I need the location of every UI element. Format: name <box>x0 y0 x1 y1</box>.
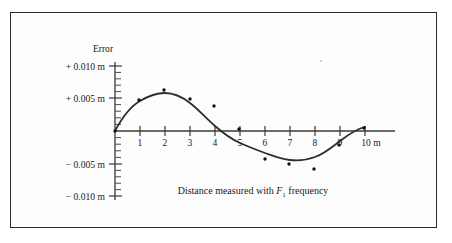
x-tick-label-7: 7 <box>288 137 293 148</box>
x-tick-label-1: 1 <box>138 137 143 148</box>
y-tick-label-neg-0.005: − 0.005 m <box>66 159 106 170</box>
x-tick-label-2: 2 <box>163 137 168 148</box>
error-curve-chart: + 0.010 m + 0.005 m − 0.005 m − 0.010 m … <box>0 0 452 243</box>
x-tick-label-3: 3 <box>188 137 193 148</box>
x-tick-label-8: 8 <box>313 137 318 148</box>
caption-suffix: frequency <box>286 185 328 196</box>
data-point <box>337 143 340 146</box>
x-tick-label-5: 5 <box>238 137 243 148</box>
data-point <box>237 127 240 130</box>
y-tick-label-pos-0.010: + 0.010 m <box>66 61 106 72</box>
data-point <box>312 167 315 170</box>
data-point <box>137 98 140 101</box>
data-point <box>188 97 191 100</box>
paper-speck <box>320 60 322 62</box>
y-tick-label-neg-0.010: − 0.010 m <box>66 191 106 202</box>
data-point <box>212 104 215 107</box>
data-point <box>362 126 365 129</box>
x-tick-label-6: 6 <box>263 137 268 148</box>
data-point <box>263 157 266 160</box>
x-axis-caption: Distance measured with F1 frequency <box>178 185 329 199</box>
figure-root: + 0.010 m + 0.005 m − 0.005 m − 0.010 m … <box>0 0 452 243</box>
x-tick-label-4: 4 <box>213 137 218 148</box>
data-point <box>287 162 290 165</box>
caption-prefix: Distance measured with <box>178 185 277 196</box>
x-tick-label-10: 10 m <box>361 137 381 148</box>
data-point <box>113 129 116 132</box>
data-point <box>162 88 165 91</box>
y-tick-label-pos-0.005: + 0.005 m <box>66 93 106 104</box>
y-axis-title: Error <box>93 43 114 54</box>
